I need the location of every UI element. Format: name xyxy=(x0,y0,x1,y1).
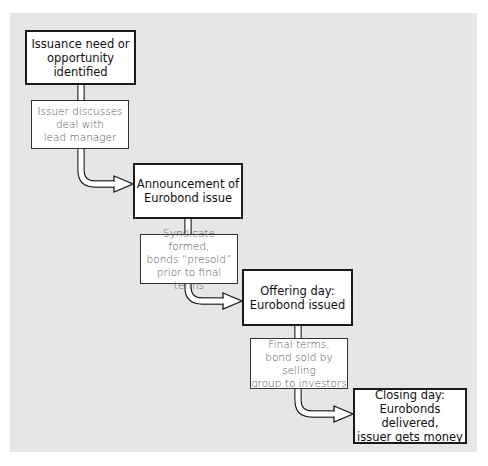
activity-label: Syndicate formed, bonds “presold” prior … xyxy=(141,227,237,292)
stage-label: Closing day: Eurobonds delivered, issuer… xyxy=(355,388,465,444)
hollow-arrow-right-icon xyxy=(334,406,353,422)
stage-label: Issuance need or opportunity identified xyxy=(27,37,134,79)
activity-box-final-terms: Final terms, bond sold by selling group … xyxy=(250,338,348,389)
stage-box-offering-day: Offering day: Eurobond issued xyxy=(242,269,353,326)
stage-box-closing-day: Closing day: Eurobonds delivered, issuer… xyxy=(353,388,467,444)
stage-box-issuance-need: Issuance need or opportunity identified xyxy=(25,30,136,85)
activity-label: Final terms, bond sold by selling group … xyxy=(251,338,347,390)
stage-label: Announcement of Eurobond issue xyxy=(137,177,239,205)
hollow-arrow-right-icon xyxy=(223,293,242,309)
stage-box-announcement: Announcement of Eurobond issue xyxy=(133,163,243,219)
activity-label: Issuer discusses deal with lead manager xyxy=(37,105,122,144)
activity-box-syndicate-formed: Syndicate formed, bonds “presold” prior … xyxy=(140,234,238,284)
activity-box-issuer-discusses: Issuer discusses deal with lead manager xyxy=(31,100,129,149)
stage-label: Offering day: Eurobond issued xyxy=(250,284,346,312)
hollow-arrow-right-icon xyxy=(114,176,133,192)
